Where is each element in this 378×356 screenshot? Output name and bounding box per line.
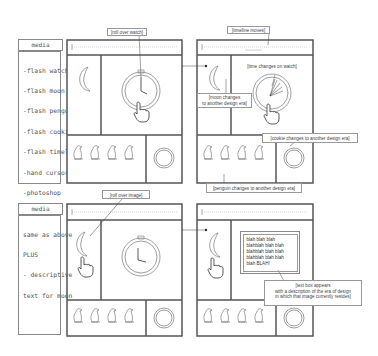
media-item: PLUS: [23, 252, 60, 259]
frame-top-right: [182, 34, 313, 184]
callout-timeline-moves: [timeline moves]: [227, 26, 270, 34]
callout-time-changes-on-watch: [time changes on watch]: [243, 63, 301, 71]
callout-roll-over-image: [roll over image]: [102, 190, 150, 199]
callout-penguin-changes: [penguin changes to another design era]: [206, 183, 302, 193]
media-list: same as above PLUS - descriptive text fo…: [18, 215, 61, 335]
callout-roll-over-watch: [roll over watch]: [107, 28, 147, 36]
callout-text-box-appears: [text box appears with a description of …: [264, 280, 362, 306]
media-item: text for moon: [23, 293, 60, 300]
frame-top-left: [67, 34, 182, 183]
text-box-line: blah BLAH!: [247, 261, 294, 267]
media-label: media: [18, 203, 63, 215]
callout-cookie-changes: [cookie changes to another design era]: [262, 133, 358, 143]
description-text-box: blah blah blah blahblah blah blah blahbl…: [240, 231, 300, 274]
frame-bottom-left: [67, 199, 182, 336]
media-item: same as above: [23, 232, 60, 239]
callout-moon-changes: [moon changes to another design era]: [197, 93, 252, 108]
media-item: - descriptive: [23, 272, 60, 279]
